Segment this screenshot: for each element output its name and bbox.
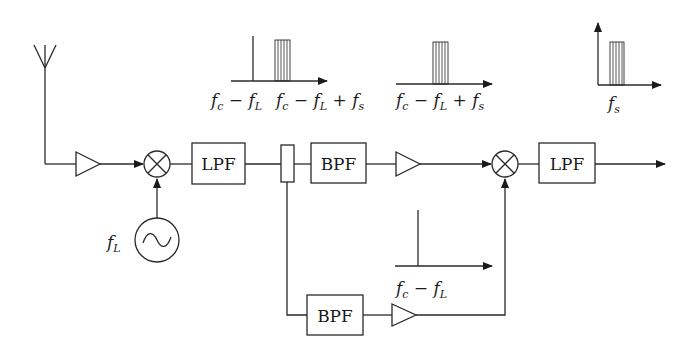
pilot-spectrum-label: fc − fL bbox=[394, 278, 447, 301]
lpf-2-block: LPF bbox=[539, 143, 595, 183]
svg-text:LPF: LPF bbox=[201, 154, 236, 174]
block-diagram: fL LPF BPF LPF BPF bbox=[0, 0, 691, 361]
amplifier-2-icon bbox=[396, 152, 491, 176]
spectrum-1-right-label: fc − fL + fs bbox=[274, 90, 365, 113]
splitter-block bbox=[281, 145, 294, 182]
svg-text:LPF: LPF bbox=[550, 154, 585, 174]
spectrum-3-label: fs bbox=[606, 93, 620, 116]
mixer-1-icon bbox=[144, 151, 192, 177]
pilot-spectrum-plot bbox=[395, 210, 492, 266]
local-oscillator-icon bbox=[135, 179, 179, 262]
amplifier-1-icon bbox=[76, 152, 143, 176]
pilot-branch: BPF bbox=[287, 179, 505, 335]
bpf-1-block: BPF bbox=[311, 143, 366, 183]
antenna-icon bbox=[34, 45, 76, 164]
spectrum-1-plot bbox=[231, 36, 327, 81]
svg-text:BPF: BPF bbox=[317, 306, 353, 326]
mixer-2-icon bbox=[492, 151, 539, 177]
spectrum-3-plot bbox=[598, 23, 661, 85]
spectrum-2-plot bbox=[396, 42, 492, 84]
oscillator-frequency-label: fL bbox=[105, 232, 121, 255]
diagram-canvas: fL LPF BPF LPF BPF bbox=[0, 0, 691, 361]
lpf-1-block: LPF bbox=[192, 143, 245, 184]
spectrum-2-label: fc − fL + fs bbox=[394, 90, 485, 113]
amplifier-3-icon bbox=[392, 304, 416, 326]
spectrum-1-left-label: fc − fL bbox=[209, 90, 262, 113]
svg-text:BPF: BPF bbox=[321, 154, 357, 174]
